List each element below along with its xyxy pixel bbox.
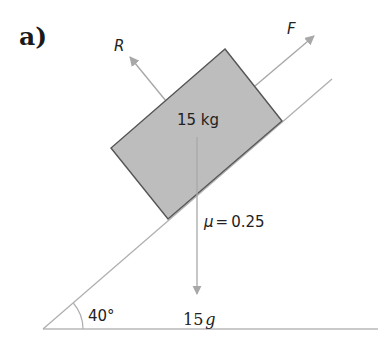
reaction-force-label: R xyxy=(114,37,124,55)
reaction-force-arrow xyxy=(130,57,166,101)
angle-label: 40° xyxy=(88,307,115,325)
applied-force-label: F xyxy=(287,20,296,38)
mu-symbol: μ xyxy=(203,213,214,231)
angle-arc xyxy=(73,303,83,329)
equals-sign: = xyxy=(216,213,229,231)
friction-label: μ=0.25 xyxy=(203,213,265,231)
applied-force-arrow xyxy=(255,36,314,86)
weight-unit: g xyxy=(205,310,215,329)
part-label: a) xyxy=(19,22,47,51)
friction-value: 0.25 xyxy=(231,213,264,231)
weight-value: 15 xyxy=(183,310,203,329)
block-mass-label: 15 kg xyxy=(177,111,219,129)
weight-label: 15g xyxy=(183,310,216,329)
inclined-plane-diagram: a) 40° F R 15 kg 15g μ=0.25 xyxy=(0,0,379,344)
